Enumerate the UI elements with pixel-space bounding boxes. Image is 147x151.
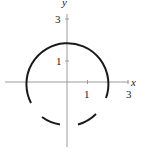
y-tick-label-1: 1 <box>56 55 62 67</box>
x-tick-label-3: 3 <box>126 88 132 100</box>
x-axis-label: x <box>130 76 136 88</box>
dashed-arc-left <box>42 117 60 125</box>
circle-diagram: x y 1 3 1 3 <box>0 0 147 151</box>
x-tick-label-1: 1 <box>84 88 90 100</box>
dashed-arc-right <box>78 114 96 125</box>
y-tick-label-3: 3 <box>55 13 61 25</box>
y-axis-label: y <box>61 0 67 8</box>
